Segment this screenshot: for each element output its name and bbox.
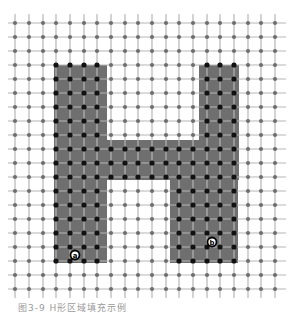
grid-node: [204, 76, 209, 81]
grid-node: [232, 49, 236, 53]
grid-node: [190, 146, 195, 151]
grid-node: [67, 76, 72, 81]
grid-node: [123, 259, 127, 263]
grid-node: [53, 202, 58, 207]
grid-node: [150, 217, 154, 221]
grid-node: [190, 216, 195, 221]
grid-node: [164, 245, 168, 249]
grid-node: [123, 217, 127, 221]
grid-node: [176, 174, 181, 179]
grid-node: [41, 259, 45, 263]
grid-node: [259, 77, 263, 81]
grid-node: [204, 230, 209, 235]
grid-node: [123, 63, 127, 67]
grid-node: [259, 49, 263, 53]
grid-node: [108, 160, 113, 165]
grid-node: [204, 90, 209, 95]
grid-node: [136, 189, 140, 193]
grid-node: [53, 188, 58, 193]
grid-node: [41, 245, 45, 249]
grid-node: [273, 35, 277, 39]
grid-node: [217, 160, 222, 165]
grid-node: [81, 104, 86, 109]
grid-node: [190, 174, 195, 179]
grid-node: [231, 188, 236, 193]
grid-node: [94, 258, 99, 263]
grid-node: [164, 35, 168, 39]
grid-node: [150, 203, 154, 207]
grid-node: [41, 203, 45, 207]
grid-node: [177, 273, 181, 277]
grid-node: [204, 132, 209, 137]
grid-node: [231, 118, 236, 123]
grid-node: [82, 49, 86, 53]
grid-node: [150, 189, 154, 193]
grid-node: [231, 104, 236, 109]
grid-node: [123, 35, 127, 39]
grid-node: [217, 132, 222, 137]
grid-node: [176, 146, 181, 151]
grid-node: [163, 174, 168, 179]
grid-node: [176, 258, 181, 263]
grid-node: [259, 119, 263, 123]
grid-node: [94, 118, 99, 123]
grid-node: [163, 146, 168, 151]
grid-node: [259, 161, 263, 165]
grid-node: [204, 104, 209, 109]
grid-node: [136, 287, 140, 291]
grid-node: [94, 188, 99, 193]
grid-node: [27, 175, 31, 179]
grid-node: [136, 259, 140, 263]
grid-node: [177, 91, 181, 95]
grid-node: [81, 146, 86, 151]
grid-node: [205, 21, 209, 25]
grid-node: [273, 245, 277, 249]
grid-node: [191, 77, 195, 81]
grid-node: [191, 287, 195, 291]
grid-node: [259, 91, 263, 95]
grid-node: [150, 133, 154, 137]
grid-node: [231, 160, 236, 165]
grid-node: [246, 91, 250, 95]
svg-text:a: a: [73, 252, 78, 260]
grid-node: [246, 49, 250, 53]
grid-node: [13, 161, 17, 165]
grid-node: [136, 245, 140, 249]
grid-node: [259, 259, 263, 263]
grid-node: [164, 91, 168, 95]
grid-node: [163, 160, 168, 165]
grid-node: [41, 147, 45, 151]
grid-node: [217, 216, 222, 221]
marker-a-icon: a: [71, 251, 80, 260]
grid-node: [273, 91, 277, 95]
grid-node: [217, 62, 222, 67]
grid-node: [13, 119, 17, 123]
grid-node: [123, 133, 127, 137]
grid-node: [27, 231, 31, 235]
grid-node: [94, 104, 99, 109]
grid-node: [27, 203, 31, 207]
grid-node: [259, 273, 263, 277]
grid-node: [246, 217, 250, 221]
grid-node: [150, 245, 154, 249]
grid-node: [273, 217, 277, 221]
grid-node: [136, 203, 140, 207]
grid-node: [177, 287, 181, 291]
grid-node: [176, 202, 181, 207]
grid-node: [95, 49, 99, 53]
grid-node: [164, 217, 168, 221]
grid-node: [27, 49, 31, 53]
grid-node: [94, 62, 99, 67]
grid-node: [109, 21, 113, 25]
grid-node: [205, 273, 209, 277]
grid-node: [13, 147, 17, 151]
grid-node: [136, 133, 140, 137]
grid-node: [273, 203, 277, 207]
grid-node: [27, 91, 31, 95]
grid-node: [246, 63, 250, 67]
grid-node: [41, 189, 45, 193]
grid-node: [246, 133, 250, 137]
grid-node: [218, 49, 222, 53]
grid-node: [205, 49, 209, 53]
grid-node: [273, 175, 277, 179]
